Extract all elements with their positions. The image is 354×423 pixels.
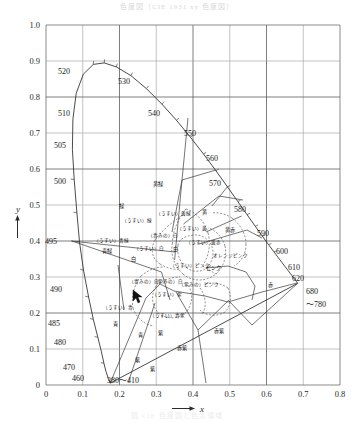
region-label-pale-pink: （うすい）ピンク <box>170 262 210 269</box>
wavelength-label-490: 490 <box>50 285 62 294</box>
region-label-red-purple-1: 赤紫 <box>214 328 224 334</box>
region-label-red-purple-2: 赤紫 <box>177 345 187 351</box>
y-tick-4: 0.4 <box>29 236 40 246</box>
region-label-purplish-pink: （紫みの）ピンク <box>179 282 219 288</box>
wavelength-label-495: 495 <box>45 237 57 246</box>
region-label-purple-2: 紫 <box>135 357 140 363</box>
y-tick-0: 0 <box>36 380 40 390</box>
wavelength-label-580: 580 <box>234 205 246 214</box>
wavelength-label-590: 590 <box>257 229 269 238</box>
y-axis-tick-labels: 0 0.1 0.2 0.3 0.4 0.5 0.6 0.7 0.8 0.9 1.… <box>29 20 40 390</box>
region-label-blue-green: 青緑 <box>102 247 113 255</box>
region-label-pale-blue-green: （うすい）青緑 <box>94 237 129 244</box>
x-tick-5: 0.5 <box>224 389 235 399</box>
x-tick-8: 0.8 <box>335 389 346 399</box>
region-label-blue-2: 青 <box>138 331 143 339</box>
y-axis-name: y <box>15 204 20 214</box>
x-axis-name: x <box>199 404 204 414</box>
x-tick-4: 0.4 <box>188 389 199 399</box>
wavelength-label-460: 460 <box>72 374 84 383</box>
spectral-locus <box>71 59 298 383</box>
region-label-pale-white: （うすい）白 <box>134 245 164 252</box>
wavelength-label-380-410: 380～410 <box>107 376 139 385</box>
x-tick-0: 0 <box>44 389 48 399</box>
region-label-pale-yellow-green: （うすい）黄緑 <box>156 210 191 217</box>
wavelength-label-550: 550 <box>184 129 196 138</box>
region-label-white-2: 白 <box>131 255 136 263</box>
chromaticity-diagram-figure: 色度図（CIE 1931 xy 色度図） 図 CIE 色度図と色名領域 <box>0 0 354 423</box>
wavelength-label-780: ～780 <box>306 300 326 309</box>
x-tick-6: 0.6 <box>261 389 272 399</box>
region-label-pale-purple: （うすい）紫 <box>152 291 182 298</box>
wavelength-label-600: 600 <box>276 247 288 256</box>
wavelength-label-620: 620 <box>292 274 304 283</box>
region-label-pale-yellow: （うすい）黄 <box>177 225 207 232</box>
y-tick-8: 0.8 <box>29 92 40 102</box>
region-label-blue-1: 青 <box>113 320 118 328</box>
wavelength-label-480: 480 <box>54 338 66 347</box>
wavelength-label-610: 610 <box>288 263 300 272</box>
y-tick-1: 0.1 <box>29 344 40 354</box>
region-label-purple-1: 紫 <box>158 330 163 336</box>
wavelength-label-540: 540 <box>148 109 160 118</box>
y-tick-5: 0.5 <box>29 200 40 210</box>
region-label-pale-green: （うすい）緑 <box>122 217 152 224</box>
region-label-pale-blue-purple: （うすい）青紫 <box>150 312 185 319</box>
region-label-pale-yellow-red: （うすい）黄赤 <box>186 239 221 246</box>
wavelength-label-485: 485 <box>48 319 60 328</box>
grid-lines <box>46 25 340 385</box>
region-label-yellow-green: 黄緑 <box>153 180 164 188</box>
wavelength-label-505: 505 <box>54 141 66 150</box>
region-label-yellow-red: 黄赤 <box>225 226 235 234</box>
y-tick-9: 0.9 <box>29 56 40 66</box>
wavelength-label-500: 500 <box>54 177 66 186</box>
x-tick-7: 0.7 <box>298 389 309 399</box>
wavelength-label-510: 510 <box>58 109 70 118</box>
y-tick-7: 0.7 <box>29 128 40 138</box>
wavelength-label-520: 520 <box>58 67 70 76</box>
diagram-canvas: 0 0.1 0.2 0.3 0.4 0.5 0.6 0.7 0.8 0 0.1 … <box>0 0 354 423</box>
wavelength-label-570: 570 <box>209 179 221 188</box>
region-label-green: 緑 <box>119 202 125 209</box>
region-label-purple-3: 紫 <box>150 366 155 372</box>
x-tick-3: 0.3 <box>151 389 162 399</box>
y-tick-10: 1.0 <box>29 20 40 30</box>
wavelength-label-560: 560 <box>206 154 218 163</box>
y-tick-3: 0.3 <box>29 272 40 282</box>
y-tick-2: 0.2 <box>29 308 40 318</box>
region-label-bluish-white-2: （青みの）白 <box>129 278 159 285</box>
wavelength-label-530: 530 <box>118 77 130 86</box>
x-tick-2: 0.2 <box>114 389 125 399</box>
y-tick-6: 0.6 <box>29 164 40 174</box>
region-label-pale-blue: （うすい）青 <box>103 304 133 311</box>
region-label-bluish-white: （青みの）白 <box>148 232 178 239</box>
region-label-yellow: 黄 <box>202 208 207 216</box>
wavelength-label-680: 680 <box>306 287 318 296</box>
region-label-red: 赤 <box>268 282 273 288</box>
mouse-cursor <box>133 290 142 303</box>
wavelength-label-470: 470 <box>63 363 75 372</box>
region-label-white-1: 白 <box>173 245 178 253</box>
x-axis-tick-labels: 0 0.1 0.2 0.3 0.4 0.5 0.6 0.7 0.8 <box>44 389 345 399</box>
x-tick-1: 0.1 <box>77 389 88 399</box>
